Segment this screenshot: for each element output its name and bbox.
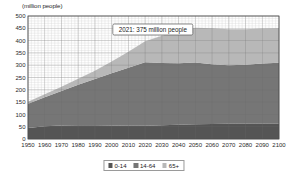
svg-text:50: 50 [19, 124, 26, 130]
legend-swatch-icon [162, 163, 167, 168]
svg-text:2040: 2040 [172, 142, 186, 148]
svg-text:2080: 2080 [239, 142, 253, 148]
svg-text:250: 250 [15, 75, 26, 81]
svg-text:2060: 2060 [205, 142, 219, 148]
population-stacked-area-chart: (million people) 05010015020025030035040… [0, 0, 287, 174]
legend-swatch-icon [108, 163, 113, 168]
svg-text:2050: 2050 [189, 142, 203, 148]
chart-plot-area: 050100150200250300350400450500 195019601… [0, 0, 287, 174]
svg-text:2090: 2090 [256, 142, 270, 148]
stacked-area-series [28, 28, 279, 139]
svg-text:2021: 375 million people: 2021: 375 million people [119, 26, 188, 34]
svg-text:300: 300 [15, 62, 26, 68]
svg-text:2070: 2070 [222, 142, 236, 148]
svg-text:500: 500 [15, 13, 26, 19]
legend-item-14-64: 14-64 [133, 163, 155, 169]
svg-text:1970: 1970 [55, 142, 69, 148]
svg-text:1950: 1950 [21, 142, 35, 148]
annotation-callout: 2021: 375 million people [113, 24, 193, 35]
legend-item-label: 14-64 [140, 163, 155, 169]
svg-text:100: 100 [15, 112, 26, 118]
svg-text:1990: 1990 [88, 142, 102, 148]
svg-text:450: 450 [15, 25, 26, 31]
svg-text:2010: 2010 [122, 142, 136, 148]
legend-item-label: 0-14 [114, 163, 126, 169]
y-axis-tick-labels: 050100150200250300350400450500 [15, 13, 26, 142]
svg-text:2000: 2000 [105, 142, 119, 148]
svg-text:150: 150 [15, 99, 26, 105]
svg-text:2030: 2030 [155, 142, 169, 148]
svg-text:350: 350 [15, 50, 26, 56]
svg-text:1960: 1960 [38, 142, 52, 148]
legend-item-0-14: 0-14 [108, 163, 127, 169]
svg-text:1980: 1980 [72, 142, 86, 148]
legend-swatch-icon [133, 163, 138, 168]
svg-text:2020: 2020 [138, 142, 152, 148]
legend-item-label: 65+ [169, 163, 179, 169]
svg-text:2100: 2100 [272, 142, 286, 148]
svg-text:400: 400 [15, 38, 26, 44]
legend-item-65plus: 65+ [162, 163, 179, 169]
svg-text:200: 200 [15, 87, 26, 93]
chart-legend: 0-1414-6465+ [103, 160, 184, 171]
x-axis-tick-labels: 1950196019701980199020002010202020302040… [21, 142, 286, 148]
